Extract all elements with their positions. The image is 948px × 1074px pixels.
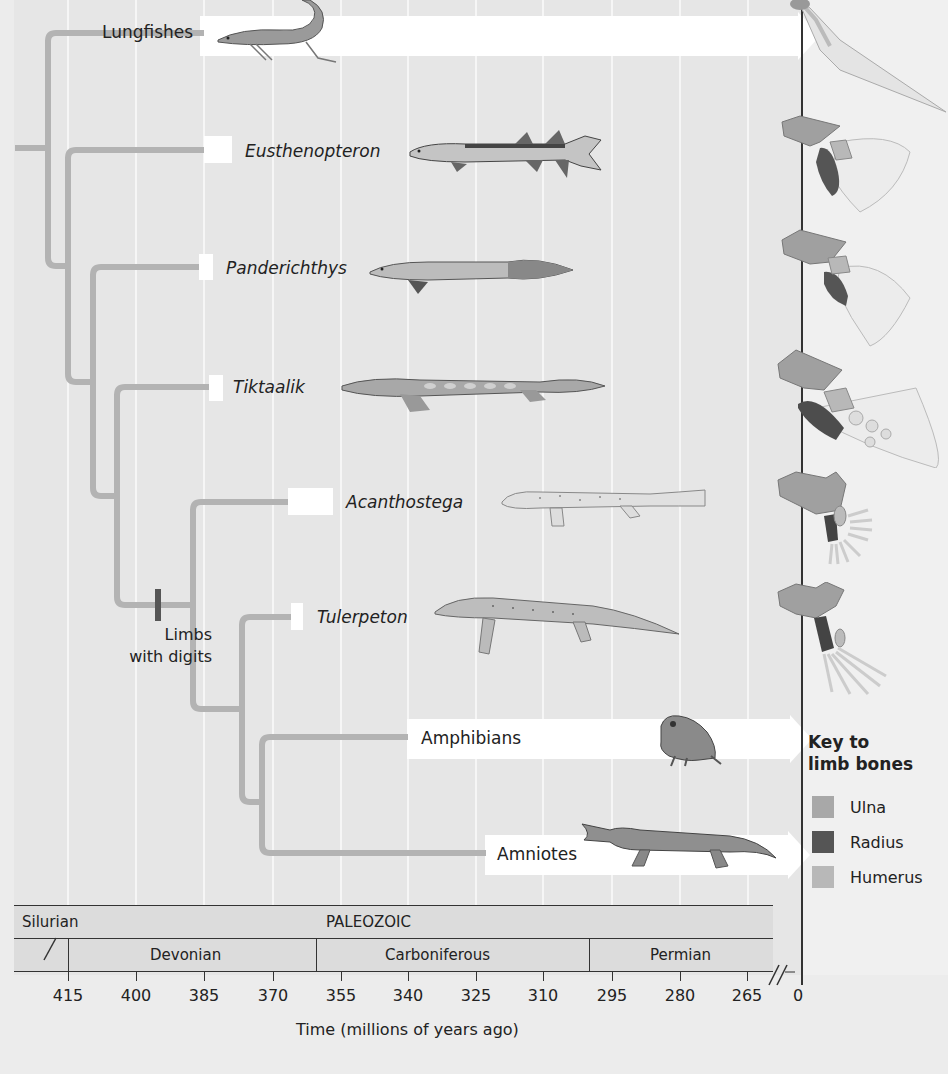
- key-label-humerus: Humerus: [850, 868, 923, 887]
- ulna-swatch: [812, 796, 834, 818]
- key-label-radius: Radius: [850, 833, 904, 852]
- tick-label: 340: [393, 986, 424, 1005]
- tiktaalik-tip-box: [209, 375, 223, 401]
- limbs-with-digits-label: Limbs with digits: [102, 624, 212, 668]
- key-title: Key to limb bones: [808, 731, 913, 775]
- tick-label: 280: [665, 986, 696, 1005]
- panderichthys-illustration: [368, 252, 578, 298]
- tick-label: 310: [528, 986, 559, 1005]
- tick: [408, 972, 409, 981]
- timeline-top-border: [14, 905, 773, 906]
- radius-swatch: [812, 831, 834, 853]
- tick-label: 385: [189, 986, 220, 1005]
- limbs-label-line1: Limbs: [102, 624, 212, 646]
- tick-label: 355: [326, 986, 357, 1005]
- axis-title: Time (millions of years ago): [296, 1020, 519, 1039]
- taxon-label-eusthenopteron: Eusthenopteron: [245, 141, 381, 161]
- silurian-break-mark: [40, 934, 60, 964]
- era-paleozoic: PALEOZOIC: [326, 913, 411, 931]
- taxon-label-lungfishes: Lungfishes: [102, 22, 193, 42]
- acanthostega-illustration: [500, 486, 710, 534]
- tulerpeton-tip-box: [291, 603, 303, 630]
- lungfish-fin-bones: [780, 0, 948, 120]
- timeline-bottom-border: [14, 971, 773, 972]
- devonian-carboniferous-boundary: [316, 938, 317, 972]
- tick: [204, 972, 205, 981]
- panderichthys-tip-box: [199, 254, 213, 280]
- period-carboniferous: Carboniferous: [385, 946, 490, 964]
- frog-illustration: [655, 712, 735, 768]
- tick: [476, 972, 477, 981]
- tick: [543, 972, 544, 981]
- key-item-radius: Radius: [812, 831, 904, 853]
- carboniferous-permian-boundary: [589, 938, 590, 972]
- lungfish-illustration: [210, 0, 340, 68]
- taxon-label-tulerpeton: Tulerpeton: [317, 607, 408, 627]
- tick-label: 0: [793, 986, 803, 1005]
- eusthenopteron-fin-bones: [780, 112, 948, 222]
- timeline-mid-border: [14, 938, 773, 939]
- tick: [341, 972, 342, 981]
- key-item-humerus: Humerus: [812, 866, 923, 888]
- tick-label: 295: [597, 986, 628, 1005]
- tulerpeton-limb-bones: [776, 582, 948, 702]
- key-label-ulna: Ulna: [850, 798, 886, 817]
- tick: [680, 972, 681, 981]
- key-title-line2: limb bones: [808, 753, 913, 775]
- taxon-label-acanthostega: Acanthostega: [346, 492, 463, 512]
- period-permian: Permian: [650, 946, 711, 964]
- tiktaalik-fin-bones: [776, 348, 948, 468]
- tick-label: 265: [732, 986, 763, 1005]
- limbs-with-digits-marker: [155, 589, 161, 621]
- tick-label: 370: [258, 986, 289, 1005]
- silurian-devonian-boundary: [68, 938, 69, 972]
- acanthostega-tip-box: [288, 488, 333, 515]
- taxon-label-panderichthys: Panderichthys: [226, 258, 347, 278]
- key-title-line1: Key to: [808, 731, 913, 753]
- tick: [68, 972, 69, 981]
- period-silurian: Silurian: [22, 913, 78, 931]
- tick-label: 400: [121, 986, 152, 1005]
- eusthenopteron-illustration: [405, 128, 605, 186]
- key-item-ulna: Ulna: [812, 796, 886, 818]
- tiktaalik-illustration: [340, 374, 610, 420]
- tick-label: 415: [53, 986, 84, 1005]
- tulerpeton-illustration: [433, 592, 683, 660]
- period-devonian: Devonian: [150, 946, 221, 964]
- tick: [612, 972, 613, 981]
- tick: [136, 972, 137, 981]
- taxon-label-amniotes: Amniotes: [497, 844, 577, 864]
- humerus-swatch: [812, 866, 834, 888]
- tick: [273, 972, 274, 981]
- taxon-label-amphibians: Amphibians: [421, 728, 521, 748]
- tick: [747, 972, 748, 981]
- limbs-label-line2: with digits: [102, 646, 212, 668]
- tick-label: 325: [461, 986, 492, 1005]
- crocodile-illustration: [580, 820, 780, 876]
- eusthenopteron-tip-box: [204, 136, 232, 163]
- panderichthys-fin-bones: [780, 228, 948, 348]
- acanthostega-limb-bones: [776, 470, 948, 580]
- axis-break-icon: [765, 963, 795, 987]
- taxon-label-tiktaalik: Tiktaalik: [233, 377, 305, 397]
